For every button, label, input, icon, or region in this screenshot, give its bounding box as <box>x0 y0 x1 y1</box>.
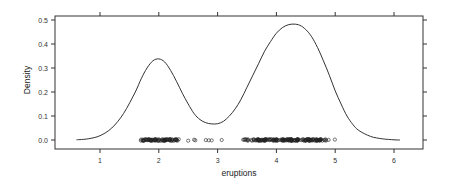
y-tick-label: 0.4 <box>38 41 48 48</box>
density-plot: 123456 0.00.10.20.30.40.5 eruptions Dens… <box>0 0 449 184</box>
x-tick-label: 1 <box>98 157 102 164</box>
x-tick-label: 5 <box>333 157 337 164</box>
rug-point <box>187 139 190 142</box>
x-tick-label: 4 <box>274 157 278 164</box>
rug-point <box>327 138 330 141</box>
y-axis-ticks: 0.00.10.20.30.40.5 <box>38 17 427 144</box>
density-curve <box>77 24 400 140</box>
y-tick-label: 0.3 <box>38 65 48 72</box>
rug-points <box>139 138 336 143</box>
y-axis-label: Density <box>22 65 32 94</box>
y-tick-label: 0.2 <box>38 89 48 96</box>
x-tick-label: 6 <box>392 157 396 164</box>
x-tick-label: 3 <box>216 157 220 164</box>
rug-point <box>220 138 223 141</box>
y-tick-label: 0.1 <box>38 113 48 120</box>
x-axis-label: eruptions <box>222 168 257 178</box>
rug-point <box>333 138 336 141</box>
y-tick-label: 0.0 <box>38 137 48 144</box>
x-tick-label: 2 <box>157 157 161 164</box>
y-tick-label: 0.5 <box>38 17 48 24</box>
